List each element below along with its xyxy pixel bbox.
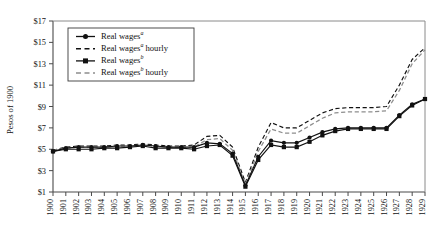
series-marker	[256, 158, 260, 162]
series-marker	[295, 145, 299, 149]
x-tick-label: 1908	[149, 199, 158, 215]
series-marker	[359, 127, 363, 131]
legend-item-label: Real wagesa hourly	[101, 42, 169, 53]
y-tick-label: $5	[38, 145, 46, 154]
x-tick-label: 1917	[264, 199, 273, 215]
y-tick-label: $9	[38, 103, 46, 112]
series-marker	[230, 154, 234, 158]
x-tick-label: 1928	[405, 199, 414, 215]
series-marker	[77, 147, 81, 151]
series-marker	[205, 144, 209, 148]
x-tick-label: 1916	[251, 199, 260, 215]
x-tick-label: 1905	[110, 199, 119, 215]
series-marker	[51, 149, 55, 153]
series-marker	[179, 146, 183, 150]
series-marker	[218, 143, 222, 147]
legend-item-label: Real wagesb hourly	[101, 66, 169, 77]
series-marker	[307, 135, 311, 139]
y-tick-label: $3	[38, 167, 46, 176]
x-tick-label: 1909	[161, 199, 170, 215]
legend-square-marker-icon	[83, 58, 88, 63]
y-tick-label: $13	[33, 60, 46, 69]
series-marker	[141, 144, 145, 148]
x-tick-label: 1912	[200, 199, 209, 215]
x-tick-label: 1914	[226, 199, 235, 215]
chart-legend: Real wagesaReal wagesa hourlyReal wagesb…	[68, 28, 194, 81]
x-tick-label: 1910	[174, 199, 183, 215]
legend-item-label: Real wagesa	[101, 30, 143, 41]
series-marker	[192, 147, 196, 151]
x-tick-label: 1926	[380, 199, 389, 215]
series-marker	[166, 146, 170, 150]
x-tick-label: 1903	[84, 199, 93, 215]
y-tick-label: $15	[33, 38, 46, 47]
series-marker	[128, 145, 132, 149]
x-tick-label: 1904	[97, 199, 106, 215]
series-marker	[89, 147, 93, 151]
x-tick-label: 1901	[59, 199, 68, 215]
x-tick-label: 1907	[136, 199, 145, 215]
x-tick-label: 1920	[303, 199, 312, 215]
x-tick-label: 1918	[277, 199, 286, 215]
x-tick-label: 1911	[187, 199, 196, 215]
x-tick-label: 1925	[367, 199, 376, 215]
y-tick-label: $17	[33, 17, 46, 26]
y-axis-title: Pesos of 1900	[5, 86, 15, 134]
x-tick-label: 1923	[341, 199, 350, 215]
series-marker	[410, 103, 414, 107]
x-tick-label: 1900	[46, 199, 55, 215]
series-marker	[320, 133, 324, 137]
chart-container: $1$3$5$7$9$11$13$15$17 19001901190219031…	[0, 0, 438, 251]
series-marker	[333, 129, 337, 133]
series-marker	[282, 141, 286, 145]
series-marker	[243, 185, 247, 189]
series-marker	[115, 146, 119, 150]
x-tick-label: 1929	[418, 199, 427, 215]
legend-circle-marker-icon	[83, 34, 88, 39]
series-marker	[397, 114, 401, 118]
series-marker	[64, 147, 68, 151]
y-tick-label: $1	[38, 188, 46, 197]
y-tick-label: $7	[38, 124, 46, 133]
x-tick-label: 1906	[123, 199, 132, 215]
series-marker	[307, 140, 311, 144]
series-marker	[102, 146, 106, 150]
series-marker	[372, 127, 376, 131]
x-tick-label: 1913	[213, 199, 222, 215]
legend-item-label: Real wagesb	[101, 54, 143, 65]
x-tick-label: 1922	[328, 199, 337, 215]
series-marker	[269, 139, 273, 143]
series-marker	[269, 143, 273, 147]
x-tick-label: 1919	[290, 199, 299, 215]
series-marker	[384, 127, 388, 131]
series-marker	[346, 127, 350, 131]
x-tick-label: 1924	[354, 199, 363, 215]
x-tick-label: 1921	[315, 199, 324, 215]
real-wages-line-chart: $1$3$5$7$9$11$13$15$17 19001901190219031…	[0, 0, 438, 251]
series-marker	[282, 145, 286, 149]
x-tick-label: 1902	[72, 199, 81, 215]
series-marker	[423, 97, 427, 101]
y-tick-label: $11	[34, 81, 46, 90]
x-tick-label: 1915	[238, 199, 247, 215]
x-tick-label: 1927	[392, 199, 401, 215]
series-marker	[295, 141, 299, 145]
series-marker	[154, 146, 158, 150]
